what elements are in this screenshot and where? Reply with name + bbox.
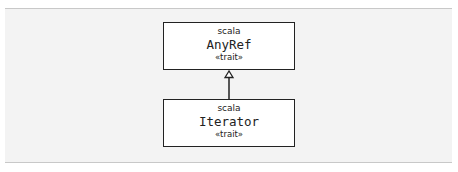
- class-node-iterator[interactable]: scala Iterator «trait»: [163, 99, 295, 147]
- node-name: AnyRef: [164, 37, 294, 52]
- node-package: scala: [164, 103, 294, 114]
- node-name: Iterator: [164, 114, 294, 129]
- node-package: scala: [164, 26, 294, 37]
- class-node-anyref[interactable]: scala AnyRef «trait»: [163, 22, 295, 70]
- node-stereotype: «trait»: [164, 52, 294, 63]
- node-stereotype: «trait»: [164, 129, 294, 140]
- hollow-triangle-icon: [225, 71, 233, 78]
